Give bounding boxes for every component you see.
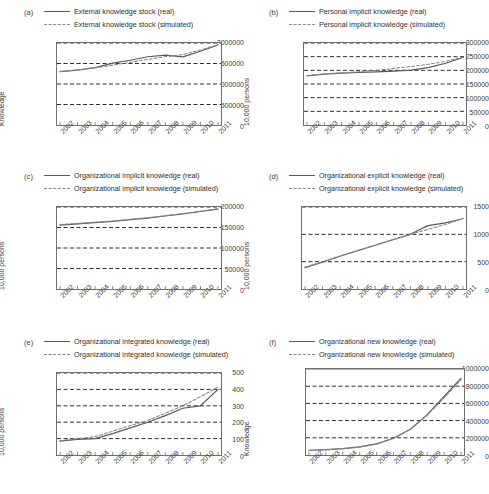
legend-label: Personal implicit knowledge (real) (319, 7, 426, 17)
legend-swatch-dashed (44, 188, 70, 190)
legend: Organizational implicit knowledge (real)… (44, 169, 244, 195)
y-axis-title: 10,000 persons (0, 242, 5, 290)
legend-label: Organizational explicit knowledge (simul… (319, 184, 463, 194)
legend-label: Organizational integrated knowledge (sim… (74, 350, 228, 360)
legend-entry: Organizational new knowledge (simulated) (289, 348, 489, 361)
legend-swatch-solid (289, 175, 315, 177)
y-axis-title: 10,000 persons (243, 242, 250, 290)
plot-area (56, 372, 222, 456)
plot-area (305, 368, 465, 456)
legend-swatch-solid (44, 175, 70, 177)
plot-area (301, 206, 467, 290)
legend-swatch-dashed (289, 24, 315, 26)
legend-entry: Organizational implicit knowledge (real) (44, 169, 244, 182)
legend-entry: External knowledge stock (simulated) (44, 18, 244, 31)
subplot-f: (f)Organizational new knowledge (real)Or… (245, 330, 489, 494)
legend-swatch-dashed (44, 24, 70, 26)
legend-label: Organizational explicit knowledge (real) (319, 171, 444, 181)
legend-entry: Organizational implicit knowledge (simul… (44, 182, 244, 195)
legend-label: Organizational new knowledge (simulated) (319, 350, 454, 360)
subplot-label: (c) (24, 172, 33, 181)
y-axis-title: 10,000 persons (0, 408, 5, 456)
subplot-b: (b)Personal implicit knowledge (real)Per… (245, 0, 489, 164)
legend-swatch-dashed (44, 354, 70, 356)
y-axis-title: Knowledge (0, 91, 5, 126)
legend: Organizational integrated knowledge (rea… (44, 335, 244, 361)
legend: Organizational explicit knowledge (real)… (289, 169, 489, 195)
legend-label: External knowledge stock (real) (74, 7, 174, 17)
legend-entry: Personal implicit knowledge (simulated) (289, 18, 489, 31)
legend-swatch-dashed (289, 354, 315, 356)
legend-label: Organizational implicit knowledge (real) (74, 171, 199, 181)
subplot-label: (a) (24, 8, 33, 17)
legend-label: Organizational integrated knowledge (rea… (74, 337, 209, 347)
legend-entry: Organizational explicit knowledge (real) (289, 169, 489, 182)
legend-swatch-solid (289, 11, 315, 13)
subplot-d: (d)Organizational explicit knowledge (re… (245, 164, 489, 328)
legend-label: Organizational implicit knowledge (simul… (74, 184, 218, 194)
legend: Organizational new knowledge (real)Organ… (289, 335, 489, 361)
legend-label: Personal implicit knowledge (simulated) (319, 20, 445, 30)
subplot-label: (e) (24, 338, 33, 347)
legend-entry: Personal implicit knowledge (real) (289, 5, 489, 18)
legend-entry: Organizational integrated knowledge (sim… (44, 348, 244, 361)
legend-swatch-solid (44, 341, 70, 343)
subplot-label: (b) (269, 8, 278, 17)
legend-swatch-solid (44, 11, 70, 13)
subplot-label: (d) (269, 172, 278, 181)
legend-label: External knowledge stock (simulated) (74, 20, 193, 30)
subplot-a: (a)External knowledge stock (real)Extern… (0, 0, 244, 164)
legend: External knowledge stock (real)External … (44, 5, 244, 31)
figure-panel-grid: (a)External knowledge stock (real)Extern… (0, 0, 489, 494)
subplot-c: (c)Organizational implicit knowledge (re… (0, 164, 244, 328)
y-axis-title: 10,000 persons (243, 78, 250, 126)
legend-entry: External knowledge stock (real) (44, 5, 244, 18)
subplot-label: (f) (269, 338, 276, 347)
legend-entry: Organizational new knowledge (real) (289, 335, 489, 348)
plot-area (303, 42, 467, 126)
plot-area (56, 206, 222, 290)
legend-entry: Organizational explicit knowledge (simul… (289, 182, 489, 195)
legend-entry: Organizational integrated knowledge (rea… (44, 335, 244, 348)
plot-area (56, 42, 222, 126)
y-axis-title: Knowledge (243, 421, 250, 456)
subplot-e: (e)Organizational integrated knowledge (… (0, 330, 244, 494)
legend-swatch-solid (289, 341, 315, 343)
legend: Personal implicit knowledge (real)Person… (289, 5, 489, 31)
legend-swatch-dashed (289, 188, 315, 190)
legend-label: Organizational new knowledge (real) (319, 337, 436, 347)
